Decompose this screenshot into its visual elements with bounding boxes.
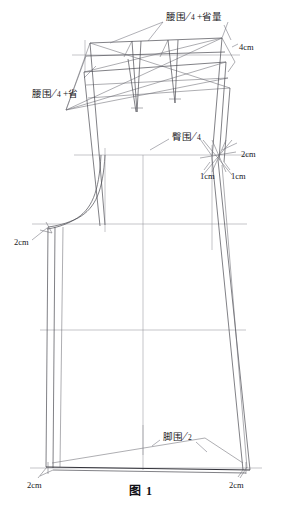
label-waist-left-denominator: 4 [57, 91, 61, 99]
construction-guides [30, 40, 262, 470]
pattern-figure: 腰围⁄4+省量 腰围⁄4+省 臀围⁄4 脚围⁄2 4cm 2cm 1cm 1cm… [0, 0, 294, 511]
label-waist-left-suffix: +省 [63, 89, 78, 99]
fraction-bar-icon: ⁄4 [52, 88, 63, 99]
pattern-drawing [0, 0, 294, 511]
measurement-right-2cm: 2cm [241, 150, 256, 159]
label-hip-text: 臀围 [172, 132, 192, 142]
fraction-bar-icon: ⁄2 [183, 431, 194, 442]
right-hip-cluster [200, 140, 237, 175]
label-waist-left: 腰围⁄4+省 [32, 88, 78, 100]
label-hem: 脚围⁄2 [163, 431, 194, 443]
measurement-hem-right-2cm: 2cm [229, 481, 244, 490]
label-hem-denominator: 2 [188, 434, 192, 442]
label-waist-left-text: 腰围 [32, 89, 52, 99]
measurement-right-inner-1cm: 1cm [200, 172, 215, 181]
label-hip: 臀围⁄4 [172, 131, 203, 143]
label-waist-top-suffix: +省量 [197, 12, 222, 22]
figure-caption: 图 1 [129, 481, 153, 499]
fraction-bar-icon: ⁄4 [192, 131, 203, 142]
label-waist-top-denominator: 4 [191, 14, 195, 22]
label-waist-top: 腰围⁄4+省量 [166, 11, 222, 23]
waist-construction [66, 22, 231, 110]
measurement-right-outer-1cm: 1cm [231, 172, 246, 181]
label-hem-text: 脚围 [163, 432, 183, 442]
darts [124, 40, 181, 112]
hem-construction [38, 438, 247, 478]
measurement-top-right-4cm: 4cm [239, 43, 254, 52]
measurement-left-2cm: 2cm [14, 238, 29, 247]
label-hip-denominator: 4 [197, 134, 201, 142]
label-waist-top-text: 腰围 [166, 12, 186, 22]
measurement-hem-left-2cm: 2cm [27, 481, 42, 490]
fraction-bar-icon: ⁄4 [186, 11, 197, 22]
leg-outline [46, 158, 250, 473]
tick-marks [105, 145, 212, 455]
